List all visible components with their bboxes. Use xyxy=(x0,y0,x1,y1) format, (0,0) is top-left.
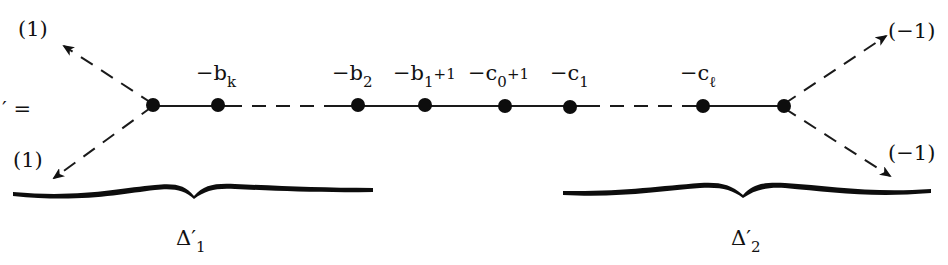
underbrace-left xyxy=(13,184,373,199)
node-c0 xyxy=(498,99,512,113)
label-b1: −b1+1 xyxy=(393,61,456,91)
label-left-bottom: (1) xyxy=(13,148,43,172)
node-b1 xyxy=(418,98,432,112)
left-fragment: ′ = xyxy=(2,97,31,121)
node-bk xyxy=(211,98,225,112)
arrow-down-right xyxy=(784,108,890,176)
arrow-up-left xyxy=(64,46,153,104)
node-cl xyxy=(696,99,710,113)
label-b2: −b2 xyxy=(332,61,373,91)
label-left-top: (1) xyxy=(18,17,48,41)
underbrace-right xyxy=(563,183,931,198)
left-arrows: (1) (1) xyxy=(13,17,153,178)
arrow-up-right xyxy=(784,36,886,104)
label-delta2: Δ′2 xyxy=(731,226,760,256)
label-c0: −c0+1 xyxy=(468,61,529,91)
brace-delta2: Δ′2 xyxy=(563,183,931,256)
node-left-branch xyxy=(146,98,160,112)
label-c1: −c1 xyxy=(550,61,589,91)
label-cl: −cℓ xyxy=(680,61,717,91)
label-delta1: Δ′1 xyxy=(176,226,205,256)
brace-delta1: Δ′1 xyxy=(13,184,373,256)
label-bk: −bk xyxy=(196,61,237,91)
label-right-top: (−1) xyxy=(888,19,935,43)
node-c1 xyxy=(563,100,577,114)
node-right-branch xyxy=(777,99,791,113)
arrow-down-left xyxy=(54,106,153,178)
node-labels: −bk −b2 −b1+1 −c0+1 −c1 −cℓ xyxy=(196,61,717,91)
node-b2 xyxy=(351,98,365,112)
right-arrows: (−1) (−1) xyxy=(784,19,935,176)
label-right-bottom: (−1) xyxy=(888,141,935,165)
plumbing-graph-diagram: ′ = (1) (1) (−1) (−1) −bk xyxy=(0,0,948,265)
